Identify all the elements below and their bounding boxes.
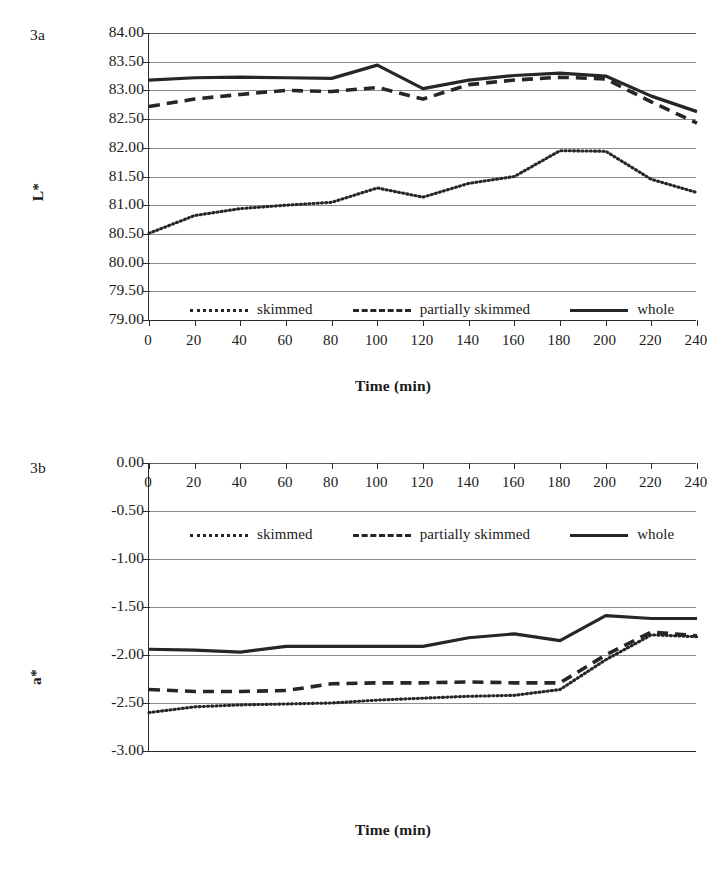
legend-label: whole xyxy=(637,526,674,543)
x-tick-label: 100 xyxy=(356,332,396,349)
dotted-line-key xyxy=(190,534,248,537)
x-tick-mark xyxy=(286,320,287,326)
y-axis-label-3b: a* xyxy=(27,657,45,697)
y-tick-label: -1.50 xyxy=(111,597,144,615)
x-tick-label: 60 xyxy=(265,332,305,349)
x-tick-mark xyxy=(240,320,241,326)
legend-label: partially skimmed xyxy=(420,526,530,543)
series-line-whole xyxy=(149,616,697,652)
x-tick-label: 0 xyxy=(128,474,168,491)
y-tick-label: -0.50 xyxy=(111,501,144,519)
solid-line-key xyxy=(570,309,628,312)
y-tick-mark xyxy=(143,751,150,752)
series-layer xyxy=(149,33,697,320)
y-tick-label: 84.00 xyxy=(109,23,144,41)
y-tick-label: 80.50 xyxy=(109,224,144,242)
x-tick-mark xyxy=(651,320,652,326)
x-tick-mark xyxy=(697,463,698,469)
legend-item-skimmed: skimmed xyxy=(190,301,313,318)
y-tick-label: 82.00 xyxy=(109,138,144,156)
series-line-partially-skimmed xyxy=(149,77,697,123)
y-tick-label: 83.50 xyxy=(109,52,144,70)
x-tick-mark xyxy=(560,320,561,326)
x-tick-mark xyxy=(423,320,424,326)
x-tick-label: 40 xyxy=(219,474,259,491)
x-tick-label: 20 xyxy=(174,474,214,491)
y-tick-label: 81.00 xyxy=(109,195,144,213)
y-axis-label-3a: L* xyxy=(29,172,47,212)
x-tick-label: 140 xyxy=(448,474,488,491)
x-tick-label: 160 xyxy=(493,332,533,349)
series-line-skimmed xyxy=(149,151,697,234)
x-tick-label: 60 xyxy=(265,474,305,491)
x-tick-label: 20 xyxy=(174,332,214,349)
legend-3b: skimmedpartially skimmedwhole xyxy=(190,526,674,543)
x-tick-mark xyxy=(697,320,698,326)
x-axis-label-3a: Time (min) xyxy=(30,377,726,395)
chart-panel-3b: 3b a* Time (min) 0.00-0.50-1.00-1.50-2.0… xyxy=(0,440,726,880)
x-tick-mark xyxy=(514,320,515,326)
x-tick-label: 240 xyxy=(676,332,716,349)
y-tick-label: -1.00 xyxy=(111,549,144,567)
x-tick-label: 80 xyxy=(311,474,351,491)
x-tick-mark xyxy=(195,320,196,326)
y-tick-label: -2.00 xyxy=(111,645,144,663)
x-tick-label: 100 xyxy=(356,474,396,491)
x-tick-label: 80 xyxy=(311,332,351,349)
y-tick-label: 80.00 xyxy=(109,253,144,271)
y-tick-labels-3a: 84.0083.5083.0082.5082.0081.5081.0080.50… xyxy=(56,0,144,320)
chart-panel-3a: 3a L* Time (min) 84.0083.5083.0082.5082.… xyxy=(0,0,726,440)
legend-label: partially skimmed xyxy=(420,301,530,318)
y-tick-label: 79.00 xyxy=(109,310,144,328)
legend-item-partially-skimmed: partially skimmed xyxy=(353,301,530,318)
series-line-partially-skimmed xyxy=(149,632,697,692)
x-tick-label: 220 xyxy=(630,332,670,349)
y-tick-label: 79.50 xyxy=(109,281,144,299)
gridline xyxy=(149,751,696,752)
legend-item-skimmed: skimmed xyxy=(190,526,313,543)
x-tick-label: 140 xyxy=(448,332,488,349)
legend-label: whole xyxy=(637,301,674,318)
x-tick-label: 200 xyxy=(585,332,625,349)
dashed-line-key xyxy=(353,534,411,537)
y-tick-label: 82.50 xyxy=(109,109,144,127)
x-tick-label: 180 xyxy=(539,474,579,491)
x-tick-label: 40 xyxy=(219,332,259,349)
x-tick-mark xyxy=(606,320,607,326)
x-tick-label: 160 xyxy=(493,474,533,491)
solid-line-key xyxy=(570,534,628,537)
x-tick-label: 120 xyxy=(402,332,442,349)
dotted-line-key xyxy=(190,309,248,312)
y-tick-label: -2.50 xyxy=(111,693,144,711)
series-line-whole xyxy=(149,65,697,112)
legend-3a: skimmedpartially skimmedwhole xyxy=(190,301,674,318)
figure-3: 3a L* Time (min) 84.0083.5083.0082.5082.… xyxy=(0,0,726,880)
y-tick-label: -3.00 xyxy=(111,741,144,759)
x-axis-label-3b: Time (min) xyxy=(30,821,726,839)
x-tick-mark xyxy=(332,320,333,326)
y-tick-label: 0.00 xyxy=(116,453,144,471)
legend-label: skimmed xyxy=(257,526,313,543)
x-tick-label: 240 xyxy=(676,474,716,491)
dashed-line-key xyxy=(353,309,411,312)
legend-label: skimmed xyxy=(257,301,313,318)
x-tick-label: 0 xyxy=(128,332,168,349)
legend-item-whole: whole xyxy=(570,301,674,318)
y-tick-label: 81.50 xyxy=(109,167,144,185)
plot-area-3a xyxy=(148,33,696,320)
x-tick-mark xyxy=(149,320,150,326)
panel-tag-3b: 3b xyxy=(30,459,46,477)
x-tick-label: 180 xyxy=(539,332,579,349)
x-tick-mark xyxy=(377,320,378,326)
legend-item-partially-skimmed: partially skimmed xyxy=(353,526,530,543)
y-tick-label: 83.00 xyxy=(109,80,144,98)
x-tick-label: 120 xyxy=(402,474,442,491)
series-layer xyxy=(149,463,697,751)
legend-item-whole: whole xyxy=(570,526,674,543)
x-tick-label: 200 xyxy=(585,474,625,491)
x-tick-label: 220 xyxy=(630,474,670,491)
x-tick-mark xyxy=(469,320,470,326)
plot-area-3b xyxy=(148,463,696,751)
panel-tag-3a: 3a xyxy=(30,26,45,44)
